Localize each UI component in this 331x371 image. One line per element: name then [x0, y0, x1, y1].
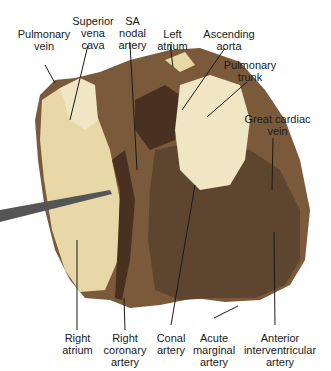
label-ascending-aorta: Ascending aorta — [194, 28, 264, 52]
heart-specimen-figure: Pulmonary vein Superior vena cava SA nod… — [0, 0, 331, 371]
label-right-coronary-artery: Right coronary artery — [100, 332, 150, 368]
label-left-atrium: Left atrium — [150, 28, 195, 52]
label-great-cardiac-vein: Great cardiac vein — [235, 113, 320, 137]
label-sa-nodal-artery: SA nodal artery — [110, 15, 155, 51]
label-right-atrium: Right atrium — [55, 332, 100, 356]
label-acute-marginal-artery: Acute marginal artery — [188, 332, 240, 368]
label-conal-artery: Conal artery — [150, 332, 192, 356]
label-pulmonary-vein: Pulmonary vein — [14, 28, 74, 52]
heart-specimen-illustration — [0, 0, 331, 371]
label-anterior-interventricular-artery: Anterior interventricular artery — [235, 332, 325, 368]
label-pulmonary-trunk: Pulmonary trunk — [215, 59, 285, 83]
